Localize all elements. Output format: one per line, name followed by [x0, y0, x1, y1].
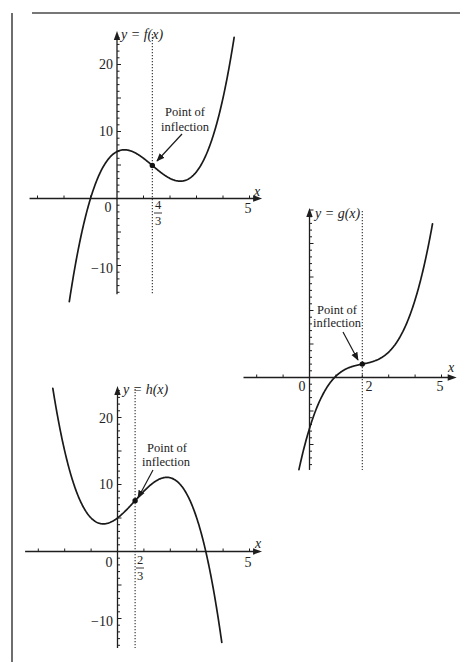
- annotation-arrow-icon: [343, 332, 358, 360]
- graph-f-plot: [30, 31, 263, 302]
- y-tick-label-20: 20: [99, 57, 113, 72]
- inflection-point-dot: [360, 361, 365, 366]
- inflection-point-dot: [150, 163, 155, 168]
- x-tick-label-two-thirds: 2 3: [136, 553, 144, 583]
- graph-h-plot: [25, 386, 262, 648]
- x-axis-label: x: [254, 536, 262, 551]
- graph-f: y = f(x) 20 10 −10 0 4 3 5 x Point of in…: [30, 27, 263, 302]
- y-axis-arrow-icon: [306, 208, 312, 217]
- x-tick-label-5: 5: [245, 201, 252, 216]
- y-tick-label-minus-10: −10: [91, 614, 113, 629]
- annotation-line-1: Point of: [147, 441, 188, 455]
- x-axis-label: x: [447, 360, 455, 375]
- fraction-numerator: 2: [137, 553, 143, 567]
- graph-g: y = g(x) 0 2 5 x Point of inflection: [244, 206, 457, 470]
- fraction-denominator: 3: [155, 214, 161, 228]
- annotation-line-2: inflection: [313, 316, 362, 330]
- x-axis-arrow-icon: [448, 374, 457, 380]
- y-tick-label-10: 10: [99, 124, 113, 139]
- graph-h: y = h(x) 20 10 −10 0 2 3 5 x Point of in…: [25, 382, 262, 648]
- x-tick-label-5: 5: [245, 555, 252, 570]
- x-tick-label-0: 0: [299, 379, 306, 394]
- function-curve: [299, 224, 433, 470]
- figure-canvas: y = f(x) 20 10 −10 0 4 3 5 x Point of in…: [0, 0, 474, 662]
- fraction-numerator: 4: [155, 198, 162, 212]
- y-axis-label: y = h(x): [121, 382, 169, 398]
- annotation-arrow-icon: [157, 134, 182, 161]
- graph-g-plot: [244, 208, 457, 470]
- annotation-line-1: Point of: [165, 105, 206, 119]
- x-tick-label-5: 5: [437, 379, 444, 394]
- annotation-line-2: inflection: [161, 120, 210, 134]
- x-tick-label-2: 2: [366, 379, 373, 394]
- y-tick-label-20: 20: [99, 411, 113, 426]
- y-axis-label: y = f(x): [119, 27, 163, 43]
- y-tick-label-10: 10: [99, 477, 113, 492]
- y-axis-arrow-icon: [114, 31, 120, 40]
- fraction-denominator: 3: [137, 569, 143, 583]
- inflection-point-dot: [132, 498, 137, 503]
- annotation-line-1: Point of: [317, 303, 358, 317]
- y-tick-label-minus-10: −10: [91, 261, 113, 276]
- x-tick-label-four-thirds: 4 3: [154, 198, 162, 228]
- function-curve: [53, 388, 222, 642]
- x-axis-label: x: [253, 184, 261, 199]
- x-tick-label-0: 0: [106, 555, 113, 570]
- y-axis-label: y = g(x): [313, 206, 361, 222]
- annotation-line-2: inflection: [142, 455, 191, 469]
- x-tick-label-0: 0: [105, 200, 112, 215]
